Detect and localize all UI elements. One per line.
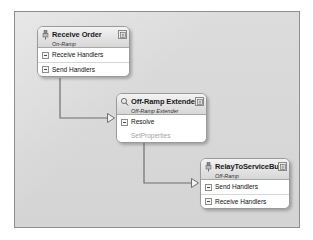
node-body: Receive Handlers Send Handlers <box>38 48 129 76</box>
node-title-row: RelayToServiceBu <box>204 161 286 172</box>
node-header[interactable]: RelayToServiceBu Off-Ramp <box>201 159 289 180</box>
node-title: RelayToServiceBu <box>215 162 286 172</box>
node-subrow-label: SetProperties <box>131 132 170 140</box>
connector-offramp-extender-to-relay[interactable] <box>144 143 199 188</box>
diagram-canvas[interactable]: Receive Order On-Ramp Receive Handlers <box>14 11 300 228</box>
minus-box-icon[interactable] <box>42 66 49 73</box>
component-pin-icon <box>41 30 50 40</box>
node-row-label: Resolve <box>131 118 154 126</box>
node-subtitle: Off-Ramp <box>215 172 286 180</box>
node-relay-to-service-bus[interactable]: RelayToServiceBu Off-Ramp Send Handlers <box>200 158 290 209</box>
node-row[interactable]: Receive Handlers <box>201 194 289 208</box>
node-subtitle: Off-Ramp Extender <box>131 107 203 115</box>
screenshot-root: Receive Order On-Ramp Receive Handlers <box>0 0 313 240</box>
node-row-label: Send Handlers <box>215 183 258 191</box>
node-body: Resolve SetProperties <box>117 115 206 142</box>
minus-box-icon[interactable] <box>42 52 49 59</box>
node-subrow[interactable]: SetProperties <box>117 129 206 142</box>
minus-box-icon[interactable] <box>205 198 212 205</box>
minus-box-icon[interactable] <box>205 184 212 191</box>
connector-receive-order-to-offramp-extender[interactable] <box>60 78 115 123</box>
node-row-label: Send Handlers <box>52 66 95 74</box>
node-header[interactable]: Receive Order On-Ramp <box>38 27 129 48</box>
node-body: Send Handlers Receive Handlers <box>201 180 289 208</box>
node-row[interactable]: Send Handlers <box>38 62 129 76</box>
component-pin-icon <box>204 162 213 172</box>
node-row-label: Receive Handlers <box>215 198 266 206</box>
node-title-row: Receive Order <box>41 29 126 40</box>
node-offramp-extender[interactable]: Off-Ramp Extender Off-Ramp Extender Reso… <box>116 93 207 143</box>
node-row[interactable]: Resolve <box>117 115 206 129</box>
collapse-icon[interactable] <box>118 30 127 39</box>
minus-box-icon[interactable] <box>121 119 128 126</box>
collapse-icon[interactable] <box>195 97 204 106</box>
node-title: Off-Ramp Extender <box>131 97 203 107</box>
node-subtitle: On-Ramp <box>52 40 126 48</box>
node-header[interactable]: Off-Ramp Extender Off-Ramp Extender <box>117 94 206 115</box>
node-row-label: Receive Handlers <box>52 51 103 59</box>
collapse-icon[interactable] <box>278 162 287 171</box>
node-receive-order[interactable]: Receive Order On-Ramp Receive Handlers <box>37 26 130 77</box>
node-row[interactable]: Receive Handlers <box>38 48 129 62</box>
node-title-row: Off-Ramp Extender <box>120 96 203 107</box>
node-title: Receive Order <box>52 30 126 40</box>
magnifier-icon <box>120 97 129 107</box>
node-row[interactable]: Send Handlers <box>201 180 289 194</box>
